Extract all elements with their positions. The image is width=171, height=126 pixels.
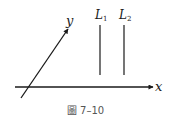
line-L2-label: L2 [118, 8, 131, 23]
y-axis: y [21, 13, 74, 98]
x-axis-label: x [155, 79, 163, 94]
x-axis: x [15, 79, 163, 94]
line-L1-label: L1 [94, 8, 107, 23]
figure-number: 7–10 [80, 105, 104, 116]
figure-prefix: 圖 [67, 105, 77, 116]
line-L2: L2 [118, 8, 131, 75]
line-L1: L1 [94, 8, 107, 75]
y-axis-label: y [65, 13, 74, 28]
figure-caption: 圖 7–10 [0, 102, 171, 117]
